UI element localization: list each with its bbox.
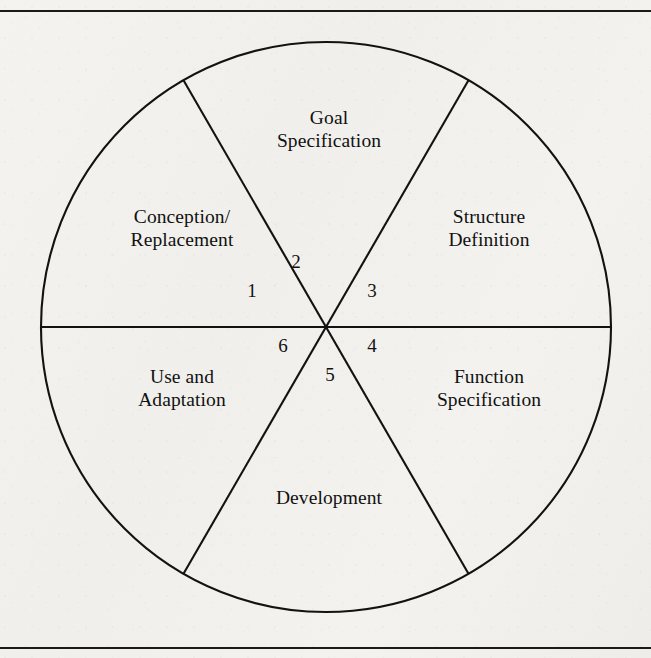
segment-number-5: 5 [310, 364, 350, 386]
segment-number-3: 3 [352, 280, 392, 302]
cycle-diagram-svg [0, 0, 651, 658]
segment-number-1: 1 [232, 280, 272, 302]
segment-number-2: 2 [276, 251, 316, 273]
segment-number-6: 6 [263, 335, 303, 357]
figure-page: Conception/ Replacement Goal Specificati… [0, 0, 651, 658]
segment-number-4: 4 [352, 335, 392, 357]
segment-label-1: Conception/ Replacement [52, 205, 312, 251]
segment-label-4: Function Specification [359, 365, 619, 411]
segment-label-3: Structure Definition [359, 205, 619, 251]
segment-label-6: Use and Adaptation [52, 365, 312, 411]
segment-label-2: Goal Specification [199, 106, 459, 152]
segment-label-5: Development [199, 486, 459, 509]
